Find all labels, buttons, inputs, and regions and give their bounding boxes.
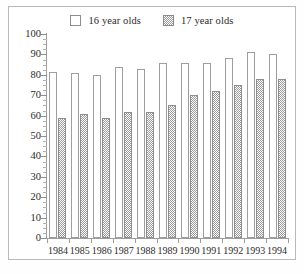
y-axis-minor-tick	[43, 60, 47, 61]
empty-square-icon	[70, 15, 81, 26]
y-axis-minor-tick	[43, 167, 47, 168]
y-axis-major-tick	[41, 75, 47, 76]
chart-figure: 16 year olds 17 year olds 01020304050607…	[0, 0, 304, 274]
y-axis-tick-label: 60	[11, 110, 41, 121]
bar-16-year-olds	[115, 67, 123, 238]
y-axis-minor-tick	[43, 90, 47, 91]
y-axis-major-tick	[41, 34, 47, 35]
plot-area	[47, 34, 288, 238]
y-axis-major-tick	[41, 95, 47, 96]
x-axis-line	[46, 238, 289, 239]
x-axis-tick	[222, 238, 223, 243]
bar-16-year-olds	[203, 63, 211, 238]
bar-17-year-olds	[168, 105, 176, 238]
y-axis-minor-tick	[43, 141, 47, 142]
y-axis-minor-tick	[43, 223, 47, 224]
y-axis-minor-tick	[43, 187, 47, 188]
y-axis-tick-label: 50	[11, 131, 41, 142]
y-axis-tick-label: 10	[11, 212, 41, 223]
y-axis: 0102030405060708090100	[8, 0, 41, 274]
y-axis-minor-tick	[43, 228, 47, 229]
y-axis-minor-tick	[43, 146, 47, 147]
y-axis-minor-tick	[43, 213, 47, 214]
y-axis-minor-tick	[43, 207, 47, 208]
bar-17-year-olds	[190, 95, 198, 238]
y-axis-major-tick	[41, 218, 47, 219]
y-axis-tick-label: 0	[11, 233, 41, 244]
x-axis-tick	[69, 238, 70, 243]
x-axis-tick	[178, 238, 179, 243]
x-axis-tick	[47, 238, 48, 243]
chart-legend: 16 year olds 17 year olds	[8, 10, 296, 30]
x-axis-tick-label: 1991	[201, 246, 221, 256]
x-axis-tick-label: 1992	[223, 246, 243, 256]
y-axis-minor-tick	[43, 44, 47, 45]
x-axis-tick	[113, 238, 114, 243]
y-axis-minor-tick	[43, 39, 47, 40]
bar-group	[47, 34, 69, 238]
y-axis-minor-tick	[43, 202, 47, 203]
legend-item-16-year-olds: 16 year olds	[70, 15, 141, 26]
y-axis-minor-tick	[43, 65, 47, 66]
bar-17-year-olds	[212, 91, 220, 238]
y-axis-minor-tick	[43, 182, 47, 183]
y-axis-tick-label: 20	[11, 192, 41, 203]
y-axis-minor-tick	[43, 151, 47, 152]
y-axis-minor-tick	[43, 85, 47, 86]
x-axis-tick	[91, 238, 92, 243]
y-axis-minor-tick	[43, 100, 47, 101]
bar-group	[266, 34, 288, 238]
bar-16-year-olds	[137, 69, 145, 238]
x-axis-tick-label: 1984	[48, 246, 68, 256]
bar-group	[200, 34, 222, 238]
bar-16-year-olds	[247, 52, 255, 238]
bar-17-year-olds	[124, 112, 132, 238]
bar-group	[91, 34, 113, 238]
x-axis-tick-label: 1989	[158, 246, 178, 256]
legend-item-17-year-olds: 17 year olds	[163, 15, 234, 26]
x-axis-tick	[244, 238, 245, 243]
bar-17-year-olds	[256, 79, 264, 238]
y-axis-major-tick	[41, 156, 47, 157]
y-axis-tick-label: 30	[11, 172, 41, 183]
bar-17-year-olds	[146, 112, 154, 238]
y-axis-minor-tick	[43, 111, 47, 112]
x-axis-tick	[200, 238, 201, 243]
y-axis-minor-tick	[43, 233, 47, 234]
y-axis-major-tick	[41, 197, 47, 198]
y-axis-major-tick	[41, 177, 47, 178]
bar-16-year-olds	[159, 63, 167, 238]
bar-16-year-olds	[93, 75, 101, 238]
x-axis-tick-label: 1993	[245, 246, 265, 256]
x-axis-tick-label: 1990	[179, 246, 199, 256]
y-axis-minor-tick	[43, 105, 47, 106]
x-axis-tick-label: 1986	[92, 246, 112, 256]
bar-16-year-olds	[269, 54, 277, 238]
bar-group	[157, 34, 179, 238]
y-axis-tick-label: 40	[11, 151, 41, 162]
y-axis-minor-tick	[43, 192, 47, 193]
y-axis-tick-label: 70	[11, 90, 41, 101]
y-axis-minor-tick	[43, 80, 47, 81]
hatched-square-icon	[163, 15, 174, 26]
bar-16-year-olds	[225, 58, 233, 238]
legend-label-16-year-olds: 16 year olds	[88, 15, 141, 26]
y-axis-major-tick	[41, 116, 47, 117]
x-axis-tick	[266, 238, 267, 243]
x-axis-tick-label: 1987	[114, 246, 134, 256]
x-axis-tick-label: 1994	[267, 246, 287, 256]
y-axis-minor-tick	[43, 131, 47, 132]
y-axis-minor-tick	[43, 49, 47, 50]
bar-17-year-olds	[278, 79, 286, 238]
x-axis-tick-label: 1985	[70, 246, 90, 256]
y-axis-minor-tick	[43, 126, 47, 127]
y-axis-minor-tick	[43, 172, 47, 173]
x-axis-tick	[157, 238, 158, 243]
bar-16-year-olds	[71, 73, 79, 238]
bar-17-year-olds	[58, 118, 66, 238]
bar-group	[178, 34, 200, 238]
y-axis-tick-label: 90	[11, 49, 41, 60]
y-axis-minor-tick	[43, 162, 47, 163]
y-axis-tick-label: 100	[11, 29, 41, 40]
y-axis-minor-tick	[43, 70, 47, 71]
